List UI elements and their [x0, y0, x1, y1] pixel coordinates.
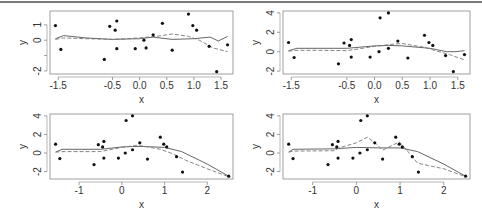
x-tick-label: -0.5: [104, 80, 122, 91]
plot-frame: [50, 11, 233, 74]
data-point: [342, 41, 345, 44]
dashed-smoother-line: [55, 34, 227, 52]
data-point: [102, 157, 105, 160]
x-tick-label: 1.5: [214, 80, 228, 91]
data-point: [444, 54, 447, 57]
data-point: [138, 141, 141, 144]
x-axis-label: x: [374, 199, 379, 210]
data-point: [58, 157, 61, 160]
x-tick-label: 0: [354, 185, 360, 196]
panel-top-left: -1.5-0.50.00.51.01.5-201xy: [17, 0, 233, 105]
data-point: [358, 151, 361, 154]
data-point: [463, 53, 466, 56]
y-tick-label: -2: [265, 167, 276, 176]
plot-area: [287, 114, 467, 178]
data-point: [101, 145, 104, 148]
data-point: [387, 11, 390, 14]
data-point: [359, 119, 362, 122]
data-point: [350, 38, 353, 41]
x-tick-label: 0.5: [160, 80, 174, 91]
data-point: [175, 155, 178, 158]
data-point: [165, 145, 168, 148]
x-tick-label: -1: [75, 185, 84, 196]
data-point: [226, 43, 229, 46]
x-tick-label: 1.0: [423, 80, 437, 91]
data-point: [187, 12, 190, 15]
x-axis-label: x: [374, 94, 379, 105]
data-point: [331, 143, 334, 146]
data-point: [159, 136, 162, 139]
panel-bottom-right: -1012-2024xy: [250, 113, 470, 210]
data-point: [131, 148, 134, 151]
data-point: [350, 55, 353, 58]
y-axis-label: y: [250, 40, 261, 45]
data-point: [162, 143, 165, 146]
data-point: [366, 148, 369, 151]
data-point: [427, 41, 430, 44]
data-point: [335, 145, 338, 148]
y-tick-label: 4: [32, 113, 43, 119]
data-point: [326, 163, 329, 166]
panel-bottom-left: -1012-2024xy: [17, 113, 233, 210]
data-point: [125, 119, 128, 122]
data-point: [387, 47, 390, 50]
data-point: [417, 170, 420, 173]
data-point: [348, 44, 351, 47]
data-point: [102, 140, 105, 143]
data-point: [103, 58, 106, 61]
y-tick-label: 0: [265, 150, 276, 156]
data-point: [287, 143, 290, 146]
data-point: [464, 175, 467, 178]
data-point: [431, 44, 434, 47]
x-tick-label: 0.0: [133, 80, 147, 91]
data-point: [59, 48, 62, 51]
data-point: [181, 170, 184, 173]
x-tick-label: 1: [162, 185, 168, 196]
data-point: [54, 143, 57, 146]
y-tick-label: 4: [265, 10, 276, 16]
data-point: [195, 29, 198, 32]
y-axis-label: y: [250, 144, 261, 149]
x-tick-label: 0.0: [368, 80, 382, 91]
data-point: [97, 143, 100, 146]
data-point: [381, 157, 384, 160]
dashed-smoother-line: [56, 146, 229, 177]
data-point: [351, 157, 354, 160]
x-tick-label: -1.5: [50, 80, 68, 91]
data-point: [171, 49, 174, 52]
data-point: [423, 34, 426, 37]
data-point: [336, 140, 339, 143]
data-point: [287, 41, 290, 44]
data-point: [398, 143, 401, 146]
data-point: [146, 157, 149, 160]
data-point: [366, 114, 369, 117]
data-point: [452, 70, 455, 73]
data-point: [54, 24, 57, 27]
data-point: [124, 151, 127, 154]
data-point: [114, 29, 117, 32]
data-point: [379, 16, 382, 19]
data-point: [191, 24, 194, 27]
data-point: [131, 114, 134, 117]
data-point: [227, 175, 230, 178]
data-point: [152, 33, 155, 36]
data-point: [292, 56, 295, 59]
x-tick-label: 2: [205, 185, 211, 196]
x-tick-label: 1.0: [187, 80, 201, 91]
data-point: [406, 56, 409, 59]
data-point: [92, 163, 95, 166]
x-tick-label: -0.5: [338, 80, 356, 91]
figure-panels: -1.5-0.50.00.51.01.5-201xy-1.5-0.50.00.5…: [0, 0, 482, 219]
data-point: [108, 25, 111, 28]
y-axis-label: y: [17, 40, 28, 45]
y-tick-label: 0: [265, 48, 276, 54]
data-point: [291, 157, 294, 160]
data-point: [145, 46, 148, 49]
x-tick-label: -1: [308, 185, 317, 196]
data-point: [373, 141, 376, 144]
data-point: [369, 55, 372, 58]
y-axis-label: y: [17, 144, 28, 149]
x-tick-label: 1: [397, 185, 403, 196]
data-point: [208, 45, 211, 48]
panel-top-right: -1.5-0.50.00.51.01.5-2024xy: [250, 10, 470, 105]
